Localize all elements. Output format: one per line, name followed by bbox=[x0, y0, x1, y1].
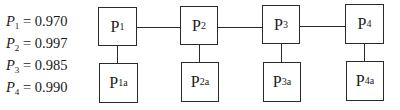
component-p2: P2 bbox=[180, 6, 218, 45]
connector-p4-p4a bbox=[364, 43, 365, 61]
connector-p2-p3 bbox=[217, 27, 263, 28]
connector-p2-p2a bbox=[199, 44, 200, 62]
legend-p4: P4 = 0.990 bbox=[6, 79, 67, 96]
connector-p1-p1a bbox=[117, 45, 118, 63]
component-p1a: P1a bbox=[99, 63, 138, 103]
connector-p3-p4 bbox=[299, 26, 346, 27]
component-p4: P4 bbox=[345, 4, 384, 44]
component-p2a: P2a bbox=[181, 62, 219, 102]
component-p3: P3 bbox=[262, 5, 300, 44]
connector-p1-p2 bbox=[136, 27, 181, 28]
legend-p3: P3 = 0.985 bbox=[6, 57, 67, 74]
component-p4a: P4a bbox=[346, 61, 384, 101]
connector-p3-p3a bbox=[281, 43, 282, 62]
component-p3a: P3a bbox=[263, 62, 301, 102]
legend-p1: P1 = 0.970 bbox=[6, 13, 67, 30]
component-p1: P1 bbox=[98, 7, 137, 46]
legend-p2: P2 = 0.997 bbox=[6, 35, 67, 52]
